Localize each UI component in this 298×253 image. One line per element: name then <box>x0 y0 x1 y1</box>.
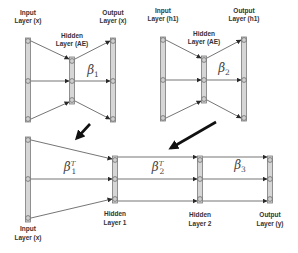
deep-network: βT1 βT2 β3 Input Layer (x) Hidden Layer … <box>14 137 283 242</box>
ae1-input-label-line1: Input <box>20 9 37 17</box>
dn-input-label-line2: Layer (x) <box>14 234 41 242</box>
dn-weight-beta3: β3 <box>233 158 246 174</box>
dn-output-label-line2: Layer (y) <box>256 220 283 228</box>
dn-hidden-layer-2 <box>198 156 203 203</box>
ae2-output-layer <box>242 37 247 121</box>
ae1-input-label-line2: Layer (x) <box>14 17 41 25</box>
ae2-hidden-label-line1: Hidden <box>193 30 215 37</box>
ae2-input-layer <box>161 37 166 121</box>
ae1-output-label-line1: Output <box>102 9 124 17</box>
stacked-autoencoder-diagram: Input Layer (x) Hidden Layer (AE) Output… <box>0 0 298 253</box>
dn-hidden1-label-line1: Hidden <box>104 210 126 217</box>
dn-input-label-line1: Input <box>20 225 37 233</box>
ae2-input-label-line1: Input <box>155 7 172 15</box>
transfer-arrow-2 <box>171 122 216 148</box>
dn-hidden2-label-line2: Layer 2 <box>189 220 212 228</box>
dn-output-label-line1: Output <box>259 211 281 219</box>
autoencoder-1: Input Layer (x) Hidden Layer (AE) Output… <box>14 9 126 122</box>
ae2-weight-beta: β2 <box>217 61 230 77</box>
ae2-output-label-line2: Layer (h1) <box>228 15 259 23</box>
ae2-hidden-layer <box>202 56 207 103</box>
ae1-hidden-label-line1: Hidden <box>61 32 83 39</box>
dn-hidden2-label-line1: Hidden <box>189 211 211 218</box>
dn-hidden1-label-line2: Layer 1 <box>104 219 127 227</box>
ae1-hidden-layer <box>70 57 75 104</box>
ae1-input-layer <box>26 38 31 122</box>
ae2-output-label-line1: Output <box>233 7 255 15</box>
dn-weight-beta1-transpose: βT1 <box>63 160 77 176</box>
dn-input-layer <box>26 137 31 222</box>
ae1-weight-beta: β1 <box>86 63 99 79</box>
autoencoder-2: Input Layer (h1) Hidden Layer (AE) Outpu… <box>147 7 259 121</box>
ae1-hidden-label-line2: Layer (AE) <box>56 40 89 48</box>
dn-hidden-layer-1 <box>113 156 118 203</box>
transfer-arrow-1 <box>77 124 90 138</box>
ae2-hidden-label-line2: Layer (AE) <box>188 38 221 46</box>
dn-weight-beta2-transpose: βT2 <box>151 160 165 176</box>
dn-output-layer <box>268 156 273 203</box>
ae1-output-label-line2: Layer (x) <box>99 17 126 25</box>
ae2-input-label-line2: Layer (h1) <box>147 15 178 23</box>
ae1-output-layer <box>111 38 116 122</box>
